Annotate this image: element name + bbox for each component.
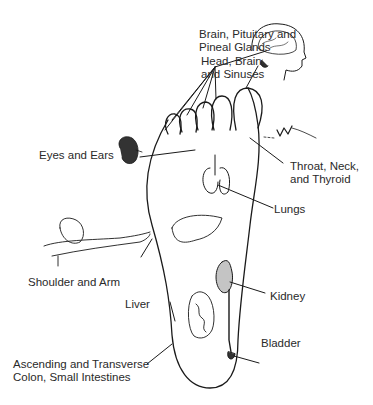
shoulder-arm-illustration [44,218,150,266]
label-line: Ascending and Transverse [13,358,149,371]
label-line: Pineal Glands [199,41,296,54]
throat-illustration [264,126,316,138]
label-line: Colon, Small Intestines [13,371,149,384]
label-lungs: Lungs [274,203,305,216]
label-brain-pituitary: Brain, Pituitary and Pineal Glands [199,28,296,54]
label-line: Brain, Pituitary and [199,28,296,41]
foot-diagram [0,0,373,405]
toe-2 [212,96,232,130]
label-line: Head, Brain, [201,55,265,68]
liver [172,215,222,242]
ureter [229,290,231,352]
label-eyes-ears: Eyes and Ears [39,149,114,162]
label-line: Throat, Neck, [290,160,359,173]
label-colon-intestines: Ascending and Transverse Colon, Small In… [13,358,149,384]
woman-head-illustration [119,137,142,164]
label-liver: Liver [125,298,150,311]
label-throat-neck-thyroid: Throat, Neck, and Thyroid [290,160,359,186]
label-line: and Thyroid [290,173,359,186]
label-line: and Sinuses [201,68,265,81]
label-bladder: Bladder [261,337,301,350]
kidney [216,260,233,292]
toe-5 [166,114,182,134]
intestines [188,292,214,338]
label-kidney: Kidney [270,290,305,303]
label-shoulder-arm: Shoulder and Arm [28,276,120,289]
label-head-brain-sinuses: Head, Brain, and Sinuses [201,55,265,81]
